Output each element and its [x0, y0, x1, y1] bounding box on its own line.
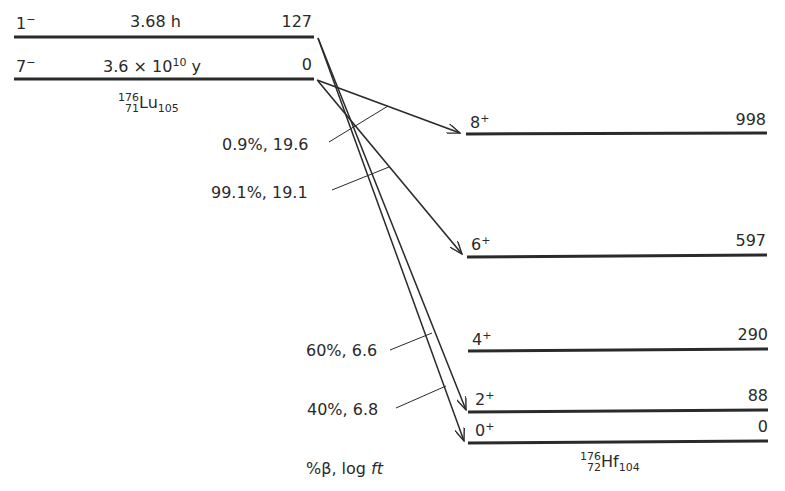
halflife-exponent: 10 [172, 56, 186, 69]
parity-value: + [485, 420, 494, 433]
halflife-lu-0: 3.6 × 1010 y [103, 57, 201, 75]
energy-lu-0: 0 [270, 57, 312, 73]
level-line-hf-290 [468, 349, 768, 351]
level-spin-hf-597: 6+ [471, 235, 490, 253]
parity-value: + [482, 329, 491, 342]
branch-label-6plus: 99.1%, 19.1 [211, 185, 308, 201]
leader-0.9 [329, 106, 388, 142]
legend-label: %β, log ft [306, 461, 383, 477]
level-spin-lu-127: 1− [16, 14, 35, 32]
neutron-number: 104 [619, 461, 640, 474]
parent-nucleus-label: 17671Lu105 [118, 92, 179, 114]
parity-value: − [26, 13, 35, 26]
spin-value: 2 [475, 390, 485, 409]
parity-value: + [480, 112, 489, 125]
leader-99.1 [332, 167, 389, 190]
energy-lu-127: 127 [270, 14, 312, 30]
element-symbol: Hf [601, 452, 619, 471]
leader-60 [390, 333, 432, 350]
daughter-nucleus-label: 17672Hf104 [580, 451, 640, 473]
level-line-hf-88 [468, 410, 768, 412]
spin-value: 4 [472, 330, 482, 349]
spin-value: 8 [470, 113, 480, 132]
leader-40 [396, 386, 446, 408]
spin-value: 7 [16, 57, 26, 76]
energy-hf-290: 290 [710, 327, 768, 343]
atomic-number: 72 [587, 461, 601, 474]
level-spin-lu-0: 7− [16, 57, 35, 75]
level-spin-hf-0: 0+ [475, 421, 494, 439]
legend-prefix: %β, log [306, 459, 371, 478]
spin-value: 0 [475, 421, 485, 440]
energy-hf-998: 998 [710, 112, 766, 128]
branch-label-8plus: 0.9%, 19.6 [222, 137, 308, 153]
halflife-lu-127: 3.68 h [130, 14, 181, 30]
parity-value: + [481, 234, 490, 247]
level-spin-hf-998: 8+ [470, 113, 489, 131]
legend-italic: ft [371, 459, 383, 478]
level-line-hf-0 [468, 441, 768, 443]
level-line-hf-998 [466, 133, 767, 134]
energy-hf-0: 0 [710, 419, 768, 435]
parity-value: − [26, 56, 35, 69]
branch-arrow-0plus [318, 38, 464, 441]
spin-value: 6 [471, 235, 481, 254]
neutron-number: 105 [158, 102, 179, 115]
level-spin-hf-290: 4+ [472, 330, 491, 348]
parity-value: + [485, 389, 494, 402]
halflife-unit: y [191, 57, 200, 76]
spin-value: 1 [16, 14, 26, 33]
energy-hf-597: 597 [710, 233, 766, 249]
atomic-number: 71 [125, 102, 139, 115]
level-line-hf-597 [467, 255, 767, 257]
level-spin-hf-88: 2+ [475, 390, 494, 408]
element-symbol: Lu [139, 93, 158, 112]
branch-label-0plus: 40%, 6.8 [307, 402, 378, 418]
energy-hf-88: 88 [710, 388, 768, 404]
halflife-base: 3.6 × 10 [103, 57, 172, 76]
branch-label-2plus: 60%, 6.6 [306, 343, 377, 359]
